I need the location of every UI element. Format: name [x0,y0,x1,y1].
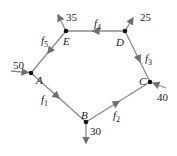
inflow-value-c: 40 [157,92,168,103]
node-label-e: E [63,36,70,47]
node-label-d: D [116,37,124,48]
node-label-b: B [81,110,88,121]
flow-network-diagram: A B C D E f1 f2 f3 f4 f5 50 35 25 40 30 [0,0,177,156]
node-c [148,80,153,85]
network-graphic [0,0,177,156]
node-label-c: C [139,76,146,87]
inflow-a-arrow [11,71,28,73]
edge-label-f3: f3 [145,53,152,67]
edge-label-f2: f2 [113,110,120,124]
outflow-value-e: 35 [66,12,77,23]
edge-label-f1: f1 [41,94,48,108]
node-d [123,29,128,34]
node-e [64,29,69,34]
edge-label-f5: f5 [41,35,48,49]
outflow-value-d: 25 [140,12,151,23]
inflow-c-arrow [153,83,166,88]
outflow-e-arrow [58,15,66,31]
edge-label-f4: f4 [94,18,101,32]
inflow-value-a: 50 [13,60,24,71]
node-label-a: A [36,75,43,86]
node-a [29,71,34,76]
outflow-value-b: 30 [90,126,101,137]
